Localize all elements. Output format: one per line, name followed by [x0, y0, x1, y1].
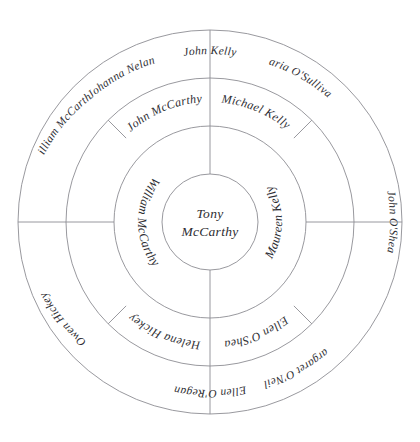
grandparent-lower-right-label: Ellen O'Shea	[223, 313, 292, 352]
divider-diagonal-sw	[108, 306, 126, 324]
fan-chart-canvas: Tony McCarthy William McCarthy Maureen K…	[0, 0, 420, 442]
grandparent-lower-left-label: Helena Hickey	[125, 311, 202, 353]
parent-left-label: William McCarthy	[135, 175, 163, 269]
center-person-line1: Tony	[197, 206, 224, 221]
fan-chart: Tony McCarthy William McCarthy Maureen K…	[0, 0, 420, 442]
great-grandparent-ssw-label: Ellen O'Regan	[173, 384, 249, 400]
great-grandparent-wnw-label: William McCarthy	[0, 0, 93, 156]
center-person-line2: McCarthy	[180, 224, 238, 239]
divider-diagonal-se	[294, 306, 312, 324]
ring-boundary-center	[162, 174, 258, 270]
divider-diagonal-ne	[294, 120, 312, 138]
parent-right-label: Maureen Kelly	[262, 183, 286, 261]
divider-diagonal-nw	[108, 120, 126, 138]
